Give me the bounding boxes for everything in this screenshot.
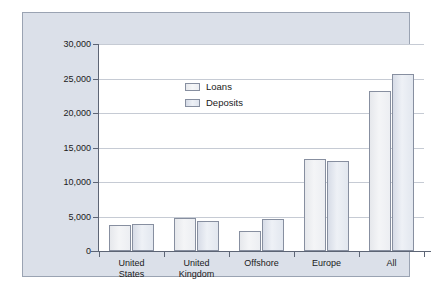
bar-loans-all [369, 91, 391, 251]
y-axis-tick-label: 0 [39, 247, 91, 256]
x-axis-tick-mark [99, 252, 100, 257]
y-axis-tick-mark [93, 44, 99, 45]
x-axis-category-label: Offshore [229, 258, 294, 269]
bar-loans-europe [304, 159, 326, 251]
bar-deposits-offshore [262, 219, 284, 251]
y-axis-tick-mark [93, 113, 99, 114]
legend-swatch-deposits [185, 99, 200, 107]
legend-item-deposits: Deposits [185, 96, 243, 110]
y-axis-labels: 05,00010,00015,00020,00025,00030,000 [39, 44, 91, 251]
x-axis-category-label: United States [99, 258, 164, 280]
y-axis-tick-label: 15,000 [39, 144, 91, 153]
chart-panel: Loans Deposits 05,00010,00015,00020,0002… [22, 12, 410, 277]
y-axis-tick-label: 10,000 [39, 178, 91, 187]
chart-figure: Loans Deposits 05,00010,00015,00020,0002… [0, 0, 434, 296]
legend-label-deposits: Deposits [206, 98, 243, 108]
y-axis-tick-label: 5,000 [39, 213, 91, 222]
bar-loans-united-states [109, 225, 131, 251]
y-axis-tick-mark [93, 148, 99, 149]
bar-deposits-united-kingdom [197, 221, 219, 251]
y-axis-tick-mark [93, 217, 99, 218]
x-axis-tick-mark [294, 252, 295, 257]
legend-item-loans: Loans [185, 80, 243, 94]
y-axis-tick-label: 20,000 [39, 109, 91, 118]
x-axis-tick-mark [424, 252, 425, 257]
bar-deposits-united-states [132, 224, 154, 251]
x-axis-tick-mark [359, 252, 360, 257]
y-axis-tick-mark [93, 182, 99, 183]
x-axis-category-label: United Kingdom [164, 258, 229, 280]
y-axis-tick-mark [93, 79, 99, 80]
bar-loans-united-kingdom [174, 218, 196, 251]
x-axis-category-label: Europe [294, 258, 359, 269]
gridline [99, 79, 424, 80]
x-axis-category-label: All [359, 258, 424, 269]
bar-loans-offshore [239, 231, 261, 251]
bar-deposits-europe [327, 161, 349, 251]
legend-swatch-loans [185, 83, 200, 91]
x-axis-tick-mark [164, 252, 165, 257]
x-axis-line [91, 251, 431, 252]
y-axis-tick-label: 30,000 [39, 40, 91, 49]
legend: Loans Deposits [185, 80, 243, 112]
bar-deposits-all [392, 74, 414, 251]
x-axis-tick-mark [229, 252, 230, 257]
y-axis-tick-label: 25,000 [39, 75, 91, 84]
plot-area: Loans Deposits [99, 44, 424, 251]
legend-label-loans: Loans [206, 82, 232, 92]
gridline [99, 44, 424, 45]
